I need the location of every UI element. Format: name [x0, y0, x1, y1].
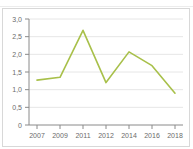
- clipped-header-strip: [0, 0, 193, 7]
- chart-plot-area: 00,51,01,52,02,53,0 20072009201120122014…: [3, 9, 189, 146]
- gridlines-group: [29, 19, 183, 107]
- x-tick-label: 2011: [75, 132, 90, 139]
- y-tick-label: 2,0: [12, 51, 22, 58]
- y-tick-label: 2,5: [12, 33, 22, 40]
- x-tick-label: 2016: [144, 132, 160, 139]
- line-chart-widget: 00,51,01,52,02,53,0 20072009201120122014…: [0, 0, 193, 149]
- y-tick-label: 1,0: [12, 86, 22, 93]
- x-tick-label: 2014: [121, 132, 137, 139]
- chart-card: 00,51,01,52,02,53,0 20072009201120122014…: [2, 8, 190, 147]
- x-tick-label: 2018: [167, 132, 183, 139]
- x-tick-label: 2012: [98, 132, 114, 139]
- header-divider: [0, 6, 193, 7]
- y-tick-label: 3,0: [12, 16, 22, 23]
- y-tick-label: 1,5: [12, 69, 22, 76]
- x-tick-label: 2007: [29, 132, 45, 139]
- y-tick-label: 0: [18, 122, 22, 129]
- x-tick-label: 2009: [52, 132, 68, 139]
- x-axis-ticks-group: 2007200920112012201420162018: [29, 125, 183, 139]
- data-series-line: [37, 30, 175, 93]
- y-axis-ticks-group: 00,51,01,52,02,53,0: [12, 16, 29, 129]
- y-tick-label: 0,5: [12, 104, 22, 111]
